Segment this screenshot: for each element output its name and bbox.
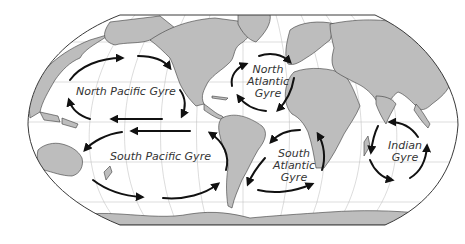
- label-line: Gyre: [269, 172, 319, 184]
- label-south-atlantic-gyre: South Atlantic Gyre: [269, 148, 319, 184]
- label-line: Gyre: [382, 152, 428, 164]
- label-north-pacific-gyre: North Pacific Gyre: [76, 86, 176, 98]
- label-indian-gyre: Indian Gyre: [382, 140, 428, 164]
- world-map: North Pacific Gyre South Pacific Gyre No…: [0, 0, 465, 244]
- map-svg: [0, 0, 465, 244]
- label-line: Gyre: [243, 88, 293, 100]
- label-south-pacific-gyre: South Pacific Gyre: [110, 151, 211, 163]
- label-north-atlantic-gyre: North Atlantic Gyre: [243, 64, 293, 100]
